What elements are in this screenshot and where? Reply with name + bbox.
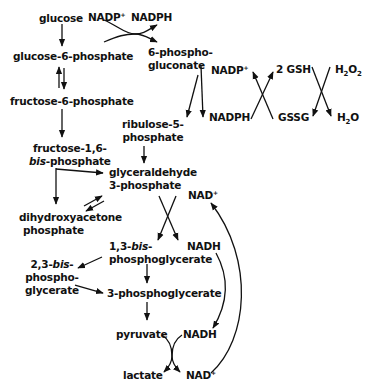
cofactor-nadp-plus-1: NADP+ (88, 11, 125, 24)
o-text: O (348, 63, 357, 75)
plus-sup: + (211, 369, 216, 376)
node-3-phosphoglycerate: 3-phosphoglycerate (107, 287, 221, 300)
ga3p-line1: glyceraldehyde (109, 166, 197, 179)
cofactor-nad-plus-2: NAD+ (186, 369, 216, 382)
nad-text: NAD (186, 369, 211, 381)
cofactor-h2o2: H2O2 (335, 63, 362, 76)
nadp-text: NADP (88, 11, 121, 23)
glucose-label: glucose (39, 12, 83, 24)
gsh-text: 2 GSH (276, 63, 311, 75)
bpg23-line3: glycerate (25, 284, 79, 297)
sub-2: 2 (357, 70, 362, 78)
f16bp-line1: fructose-1,6- (29, 142, 111, 155)
pg3-label: 3-phosphoglycerate (107, 287, 221, 299)
ru5p-line2: phosphate (122, 131, 184, 144)
plus-sup: + (244, 64, 249, 71)
g6p-label: glucose-6-phosphate (13, 50, 133, 62)
cofactor-nadp-plus-2: NADP+ (211, 64, 248, 77)
h-text: H (335, 63, 344, 75)
node-ribulose-5-phosphate: ribulose-5- phosphate (122, 118, 184, 144)
bpg13-dash: - (148, 240, 152, 252)
node-2-3-bisphosphoglycerate: 2,3-bis- phospho- glycerate (25, 258, 79, 297)
f16bp-rest: -phosphate (46, 155, 111, 167)
f16bp-line2: bis-phosphate (29, 155, 111, 168)
nadh-text: NADH (183, 328, 217, 340)
ru5p-line1: ribulose-5- (122, 118, 184, 131)
nadph-text: NADPH (209, 111, 250, 123)
node-6-phosphogluconate: 6-phospho- gluconate (148, 46, 213, 72)
gssg-text: GSSG (278, 111, 309, 123)
node-glyceraldehyde-3-phosphate: glyceraldehyde 3-phosphate (109, 166, 197, 192)
cofactor-nad-plus-1: NAD+ (188, 189, 218, 202)
f6p-label: fructose-6-phosphate (10, 95, 134, 107)
o-text: O (350, 111, 359, 123)
pyruvate-label: pyruvate (116, 328, 168, 340)
cofactor-h2o: H2O (337, 111, 359, 124)
node-dihydroxyacetone-phosphate: dihydroxyacetone phosphate (19, 211, 122, 237)
cofactor-nadph-2: NADPH (209, 111, 250, 124)
plus-sup: + (213, 189, 218, 196)
cofactor-2gsh: 2 GSH (276, 63, 311, 76)
bpg23-bis: bis (53, 258, 70, 270)
ga3p-line2: 3-phosphate (109, 179, 197, 192)
cofactor-gssg: GSSG (278, 111, 309, 124)
bpg13-bis: bis (131, 240, 148, 252)
bpg23-line1: 2,3-bis- (25, 258, 79, 271)
bpg23-dash: - (69, 258, 73, 270)
f16bp-bis: bis (29, 155, 46, 167)
node-fructose-6-phosphate: fructose-6-phosphate (10, 95, 134, 108)
cofactor-nadh-2: NADH (183, 328, 217, 341)
nadp-text: NADP (211, 64, 244, 76)
node-fructose-1-6-bisphosphate: fructose-1,6- bis-phosphate (29, 142, 111, 168)
bpg13-prefix: 1,3- (109, 240, 131, 252)
plus-sup: + (121, 11, 126, 18)
lactate-label: lactate (123, 369, 163, 381)
node-glucose: glucose (39, 12, 83, 25)
dhap-line1: dihydroxyacetone (19, 211, 122, 224)
bpg23-prefix: 2,3- (30, 258, 52, 270)
pg6-line1: 6-phospho- (148, 46, 213, 59)
bpg23-line2: phospho- (25, 271, 79, 284)
dhap-line2: phosphate (19, 224, 122, 237)
nad-text: NAD (188, 189, 213, 201)
node-lactate: lactate (123, 369, 163, 382)
bpg13-line2: phosphoglycerate (109, 253, 212, 266)
h-text: H (337, 111, 346, 123)
nadph-text: NADPH (131, 11, 172, 23)
pg6-line2: gluconate (148, 59, 213, 72)
nadh-text: NADH (187, 240, 221, 252)
cofactor-nadph-1: NADPH (131, 11, 172, 24)
node-glucose-6-phosphate: glucose-6-phosphate (13, 50, 133, 63)
node-pyruvate: pyruvate (116, 328, 168, 341)
cofactor-nadh-1: NADH (187, 240, 221, 253)
